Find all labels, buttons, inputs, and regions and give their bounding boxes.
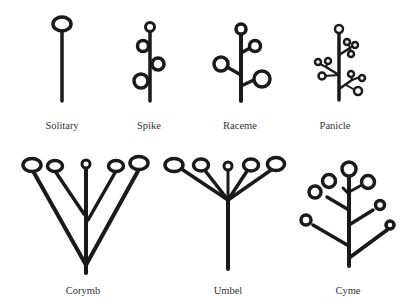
inflorescence-diagram: Solitary Spike Raceme — [0, 0, 415, 308]
solitary-figure — [53, 17, 71, 101]
panicle-figure — [315, 25, 365, 100]
raceme-figure — [214, 24, 270, 101]
corymb-figure — [23, 157, 148, 274]
cyme-figure — [301, 162, 394, 266]
label-panicle: Panicle — [320, 120, 351, 131]
label-corymb: Corymb — [66, 285, 100, 296]
label-umbel: Umbel — [214, 285, 243, 296]
spike-figure — [134, 23, 164, 102]
label-solitary: Solitary — [45, 120, 79, 131]
label-spike: Spike — [137, 120, 161, 131]
label-raceme: Raceme — [223, 120, 257, 131]
umbel-figure — [165, 158, 285, 270]
label-cyme: Cyme — [335, 285, 360, 296]
